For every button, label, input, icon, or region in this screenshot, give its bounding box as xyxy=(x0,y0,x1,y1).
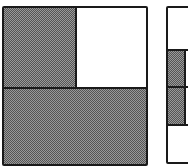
right-inner-vertical-divider xyxy=(184,50,186,126)
left-top-right-empty-region xyxy=(77,8,146,87)
left-horizontal-divider xyxy=(4,87,146,89)
right-square xyxy=(166,6,188,164)
left-top-left-filled-region xyxy=(4,8,75,87)
right-middle-upper-filled-region xyxy=(168,50,184,86)
left-square xyxy=(2,6,148,166)
right-middle-lower-filled-region xyxy=(168,88,184,124)
left-vertical-divider xyxy=(75,8,77,89)
left-bottom-filled-region xyxy=(4,89,146,164)
